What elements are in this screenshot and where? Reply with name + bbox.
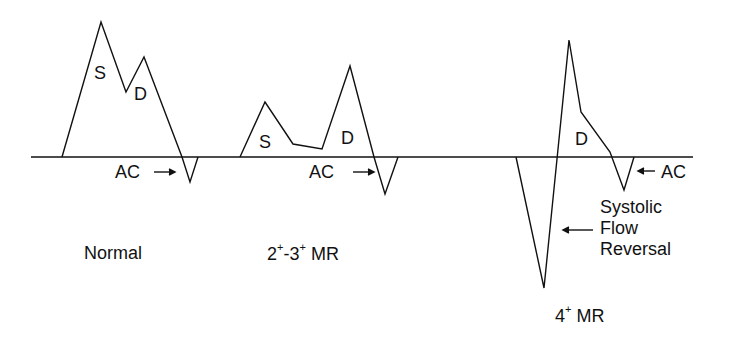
wave-label-s: S xyxy=(259,133,271,151)
wave-label-d: D xyxy=(575,130,588,148)
arrow-icon xyxy=(638,168,655,174)
arrow-icon xyxy=(154,169,175,175)
wave-label-ac: AC xyxy=(309,163,334,181)
panel-caption-moderate-mr: 2+-3+ MR xyxy=(267,244,339,263)
arrow-icon xyxy=(353,169,374,175)
panel-caption-normal: Normal xyxy=(84,244,142,262)
arrow-icon xyxy=(563,227,593,233)
panel-caption-severe-mr: 4+ MR xyxy=(555,306,604,325)
wave-label-ac: AC xyxy=(115,163,140,181)
wave-label-ac: AC xyxy=(661,163,686,181)
systolic-flow-reversal-annotation: Systolic Flow Reversal xyxy=(600,197,671,260)
wave-label-s: S xyxy=(94,64,106,82)
doppler-waveform-diagram xyxy=(0,0,731,345)
normal-waveform xyxy=(62,22,198,182)
wave-label-d: D xyxy=(341,129,354,147)
wave-label-d: D xyxy=(134,85,147,103)
